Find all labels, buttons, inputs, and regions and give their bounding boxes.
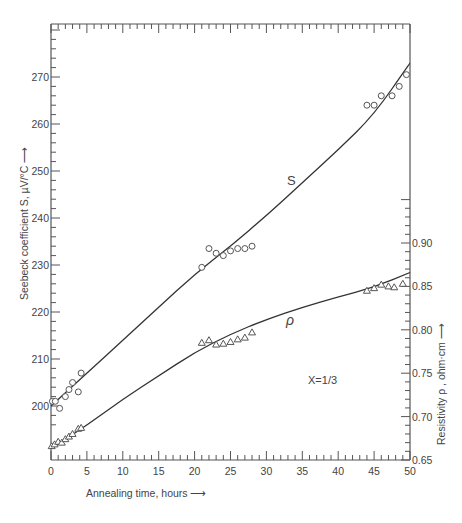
composition-annotation: X=1/3 <box>308 374 337 386</box>
data-point-rho <box>249 329 256 335</box>
y-axis-left-label: Seebeck coefficient S, µV/°C ⟶ <box>18 147 30 300</box>
data-point-rho <box>234 336 241 342</box>
svg-text:0.90: 0.90 <box>412 237 433 249</box>
data-point-rho <box>241 334 248 340</box>
svg-text:220: 220 <box>31 306 49 318</box>
fit-curves <box>51 63 410 449</box>
data-point-s <box>220 253 226 259</box>
data-point-s <box>228 248 234 254</box>
svg-text:240: 240 <box>31 212 49 224</box>
data-point-s <box>396 83 402 89</box>
svg-text:230: 230 <box>31 259 49 271</box>
data-point-s <box>75 389 81 395</box>
data-point-rho <box>205 337 212 343</box>
data-point-rho <box>385 283 392 289</box>
data-point-s <box>235 246 241 252</box>
data-points <box>48 72 409 449</box>
data-point-s <box>242 246 248 252</box>
svg-text:210: 210 <box>31 353 49 365</box>
plot-frame <box>51 24 410 460</box>
rho-curve-label: ρ <box>285 312 294 328</box>
data-point-s <box>213 250 219 256</box>
svg-text:200: 200 <box>31 400 49 412</box>
data-point-s <box>78 370 84 376</box>
y-axis-left: 200210220230240250260270 <box>31 30 60 425</box>
data-point-s <box>389 93 395 99</box>
data-point-rho <box>399 280 406 286</box>
data-point-s <box>199 264 205 270</box>
fit-curve-rho <box>51 273 410 449</box>
svg-text:270: 270 <box>31 71 49 83</box>
svg-text:0.75: 0.75 <box>412 367 433 379</box>
data-point-rho <box>378 281 385 287</box>
svg-text:0.85: 0.85 <box>412 280 433 292</box>
data-point-rho <box>391 284 398 290</box>
x-axis-label: Annealing time, hours ⟶ <box>86 487 206 499</box>
data-point-rho <box>227 338 234 344</box>
svg-text:40: 40 <box>332 465 344 477</box>
svg-text:25: 25 <box>225 465 237 477</box>
data-point-s <box>249 243 255 249</box>
svg-text:0: 0 <box>48 465 54 477</box>
data-point-s <box>378 93 384 99</box>
s-curve-label: S <box>287 173 296 188</box>
data-point-s <box>403 72 409 78</box>
data-point-rho <box>220 340 227 346</box>
y-axis-right: 0.650.700.750.800.850.90 <box>401 200 433 466</box>
data-point-rho <box>198 339 205 345</box>
fit-curve-s <box>51 63 410 406</box>
svg-text:45: 45 <box>368 465 380 477</box>
svg-text:0.80: 0.80 <box>412 324 433 336</box>
data-point-s <box>52 398 58 404</box>
svg-text:10: 10 <box>117 465 129 477</box>
svg-text:0.70: 0.70 <box>412 411 433 423</box>
y-axis-right-label: Resistivity ρ , ohm·cm ⟶ <box>435 323 447 445</box>
data-point-s <box>62 394 68 400</box>
svg-text:35: 35 <box>296 465 308 477</box>
data-point-s <box>206 246 212 252</box>
svg-text:20: 20 <box>189 465 201 477</box>
svg-text:260: 260 <box>31 118 49 130</box>
svg-text:0.65: 0.65 <box>412 454 433 466</box>
data-point-s <box>66 387 72 393</box>
data-point-s <box>371 102 377 108</box>
svg-text:15: 15 <box>153 465 165 477</box>
svg-text:250: 250 <box>31 165 49 177</box>
svg-text:5: 5 <box>84 465 90 477</box>
svg-text:50: 50 <box>404 465 416 477</box>
data-point-s <box>364 102 370 108</box>
data-point-s <box>57 405 63 411</box>
data-point-s <box>70 380 76 386</box>
svg-text:30: 30 <box>261 465 273 477</box>
chart: 05101520253035404550 2002102202302402502… <box>0 0 462 523</box>
